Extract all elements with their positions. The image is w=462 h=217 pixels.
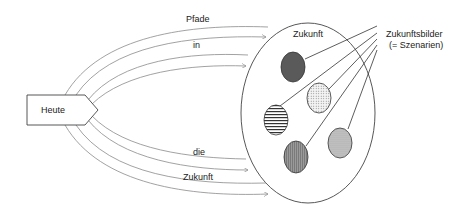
path-2-outer (88, 54, 248, 100)
start-node-heute: Heute (27, 95, 98, 125)
path-label-1: Pfade (186, 14, 210, 24)
path-label-2: in (193, 40, 200, 50)
path-3-outer (92, 116, 246, 159)
path-3-inner (88, 120, 248, 170)
scenario-dotted-gray (328, 128, 352, 158)
path-4-inner (65, 125, 268, 194)
path-label-3: die (193, 147, 205, 157)
legend-title: Zukunftsbilder (386, 29, 443, 39)
path-4-outer (76, 125, 266, 183)
path-label-4: Zukunft (183, 172, 214, 182)
container-label: Zukunft (293, 29, 324, 39)
scenario-vertical-stripes (284, 141, 308, 173)
scenario-diagram: Pfade in die Zukunft Heute Zukunft Zukun… (0, 0, 462, 217)
scenario-dotted-light (307, 83, 331, 113)
path-2-inner (92, 66, 246, 104)
legend-subtitle: (= Szenarien) (389, 40, 443, 50)
start-label: Heute (41, 105, 65, 115)
scenario-horizontal-stripes (264, 105, 288, 135)
scenario-dark (281, 52, 305, 82)
